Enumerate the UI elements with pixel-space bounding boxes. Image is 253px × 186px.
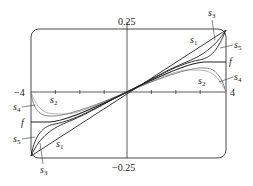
label-f-left: f: [21, 117, 25, 128]
label-s5-right: s5: [234, 39, 242, 52]
label-s2-right: s2: [198, 75, 206, 88]
label-s5-left: s5: [13, 133, 21, 146]
label-s1-bottom: s1: [56, 138, 64, 151]
label-s1-top: s1: [190, 34, 198, 47]
label-s3-top: s3: [208, 7, 216, 20]
label-s3-bottom: s3: [40, 164, 48, 177]
label-s2-left: s2: [50, 94, 58, 107]
label-s4-right: s4: [234, 71, 242, 84]
label-f-right: f: [229, 56, 233, 67]
taylor-polynomial-figure: 0.25 −0.25 −4 4 s3 s1 s5 f s2 s4 s2 s4 f…: [0, 0, 253, 186]
x-min-label: −4: [14, 87, 25, 98]
curve-s1: [31, 30, 226, 156]
x-max-label: 4: [230, 87, 235, 98]
label-s4-left: s4: [13, 101, 21, 114]
y-min-label: −0.25: [112, 162, 135, 173]
y-max-label: 0.25: [118, 16, 136, 27]
